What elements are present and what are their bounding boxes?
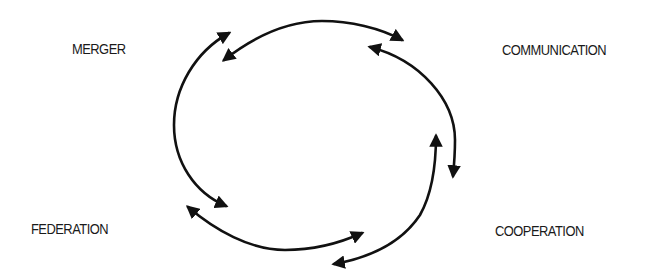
node-label-federation: FEDERATION xyxy=(31,221,108,236)
node-label-communication: COMMUNICATION xyxy=(502,42,606,57)
node-label-merger: MERGER xyxy=(72,41,126,56)
arrow-federation-cooperation xyxy=(188,207,362,250)
arrow-merger-federation xyxy=(174,33,229,206)
arrow-communication-cooperation xyxy=(370,47,455,176)
arrow-merger-communication xyxy=(224,21,402,60)
arrow-cooperation-federation-inner xyxy=(334,136,436,264)
node-label-cooperation: COOPERATION xyxy=(495,223,584,238)
cycle-diagram: MERGER COMMUNICATION FEDERATION COOPERAT… xyxy=(0,0,658,280)
